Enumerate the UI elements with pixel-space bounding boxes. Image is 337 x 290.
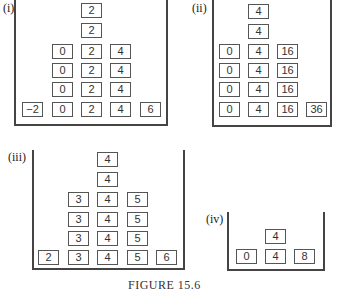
value-box: 0 xyxy=(219,102,240,117)
value-box: 0 xyxy=(236,249,257,264)
value-box: 0 xyxy=(219,44,240,59)
value-box: 0 xyxy=(52,44,73,59)
value-box: 2 xyxy=(38,250,59,265)
value-box: 16 xyxy=(277,44,298,59)
value-box: 16 xyxy=(277,102,298,117)
value-box: 4 xyxy=(110,102,131,117)
value-box: −2 xyxy=(22,102,43,117)
value-box: 16 xyxy=(277,63,298,78)
value-box: 4 xyxy=(97,212,118,227)
value-box: 3 xyxy=(68,212,89,227)
value-box: 4 xyxy=(248,44,269,59)
value-box: 4 xyxy=(248,4,269,19)
value-box: 3 xyxy=(68,231,89,246)
value-box: 4 xyxy=(97,250,118,265)
figure-caption: FIGURE 15.6 xyxy=(128,278,201,290)
panel-label: (ii) xyxy=(192,1,207,16)
value-box: 0 xyxy=(219,63,240,78)
value-box: 4 xyxy=(97,231,118,246)
value-box: 8 xyxy=(294,249,315,264)
value-box: 0 xyxy=(52,63,73,78)
value-box: 4 xyxy=(265,249,286,264)
value-box: 5 xyxy=(127,231,148,246)
value-box: 2 xyxy=(81,102,102,117)
value-box: 4 xyxy=(248,24,269,39)
value-box: 4 xyxy=(248,102,269,117)
value-box: 4 xyxy=(265,229,286,244)
value-box: 16 xyxy=(277,82,298,97)
value-box: 2 xyxy=(81,63,102,78)
value-box: 2 xyxy=(81,82,102,97)
value-box: 2 xyxy=(81,44,102,59)
value-box: 0 xyxy=(52,82,73,97)
value-box: 5 xyxy=(127,250,148,265)
value-box: 5 xyxy=(127,192,148,207)
panel-label: (iii) xyxy=(8,150,26,165)
value-box: 4 xyxy=(110,82,131,97)
panel-label: (i) xyxy=(3,1,14,16)
panel-label: (iv) xyxy=(206,212,223,227)
value-box: 4 xyxy=(97,172,118,187)
value-box: 3 xyxy=(68,250,89,265)
value-box: 2 xyxy=(81,23,102,38)
value-box: 4 xyxy=(248,63,269,78)
value-box: 2 xyxy=(81,3,102,18)
value-box: 4 xyxy=(97,152,118,167)
value-box: 4 xyxy=(248,82,269,97)
value-box: 4 xyxy=(97,192,118,207)
value-box: 3 xyxy=(68,192,89,207)
value-box: 4 xyxy=(110,44,131,59)
value-box: 0 xyxy=(52,102,73,117)
value-box: 6 xyxy=(156,250,177,265)
value-box: 6 xyxy=(140,102,161,117)
value-box: 0 xyxy=(219,82,240,97)
value-box: 36 xyxy=(306,102,327,117)
value-box: 4 xyxy=(110,63,131,78)
value-box: 5 xyxy=(127,212,148,227)
